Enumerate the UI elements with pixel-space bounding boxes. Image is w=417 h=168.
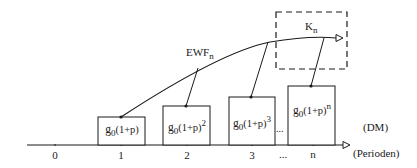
box-expr: (1+p) [303,105,326,116]
tick-label-0: 0 [52,150,58,161]
connector-dots [119,84,312,118]
curve-label-sub: n [209,51,214,61]
box-exp: 3 [267,114,272,124]
curve-label: EWFn [186,47,214,61]
payment-box-n-label: g0(1+p)n [293,102,331,119]
box-expr: (1+p) [115,124,138,135]
curve-arrow-icon [336,35,343,42]
box-expr: (1+p) [243,118,266,129]
tick-label-ellipsis: ... [279,149,287,160]
final-value-label-main: K [305,20,313,32]
payment-box-2-label: g0(1+p)2 [168,119,206,136]
final-value-label-sub: n [313,25,318,35]
box-expr: (1+p) [178,122,201,133]
value-unit-label: (DM) [363,122,388,133]
curve-label-main: EWF [186,46,209,58]
axis-arrow-icon [343,142,350,149]
boxes-ellipsis: ... [276,124,284,134]
payment-box-3-label: g0(1+p)3 [233,115,271,132]
tick-label-2: 2 [184,150,190,161]
tick-label-n: n [310,149,316,160]
final-value-label: Kn [305,21,317,35]
diagram-graphic [0,0,417,168]
box-exp: n [327,101,332,111]
tick-label-1: 1 [118,150,124,161]
axis-unit-label: (Perioden) [353,148,399,159]
box-exp: 2 [202,118,207,128]
payment-box-1-label: g0(1+p) [105,124,139,138]
tick-label-3: 3 [249,150,255,161]
